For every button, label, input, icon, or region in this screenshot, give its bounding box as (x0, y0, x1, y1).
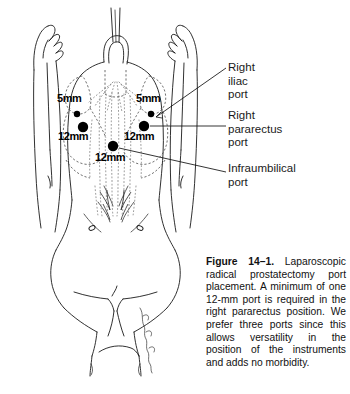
port-size-label-right-pararectus: 12mm (124, 131, 154, 142)
figure-caption-body: Laparoscopic radical prostatectomy port … (206, 256, 346, 368)
callout-infraumbilical-port: Infraumbilical port (228, 162, 296, 189)
port-marker-right-iliac (148, 111, 154, 117)
leader-right-iliac (156, 68, 226, 117)
figure-page: 5mm 12mm 5mm 12mm 12mm Right iliac port … (0, 0, 350, 394)
port-marker-infraumbilical (108, 141, 118, 151)
figure-caption: Figure 14–1. Laparoscopic radical prosta… (206, 256, 346, 369)
tendinous-inscriptions (100, 190, 131, 220)
artist-signature (140, 308, 155, 373)
port-size-label-left-pararectus: 12mm (58, 131, 88, 142)
port-size-label-left-iliac: 5mm (57, 93, 81, 104)
callout-right-pararectus-port: Right pararectus port (228, 109, 282, 150)
figure-number: Figure 14–1. (206, 256, 274, 267)
leader-infraumbilical (119, 148, 226, 172)
body-outline (34, 8, 198, 376)
port-size-label-infraumbilical: 12mm (95, 152, 125, 163)
callout-right-iliac-port: Right iliac port (228, 61, 255, 102)
port-marker-left-iliac (74, 111, 80, 117)
port-size-label-right-iliac: 5mm (136, 93, 160, 104)
